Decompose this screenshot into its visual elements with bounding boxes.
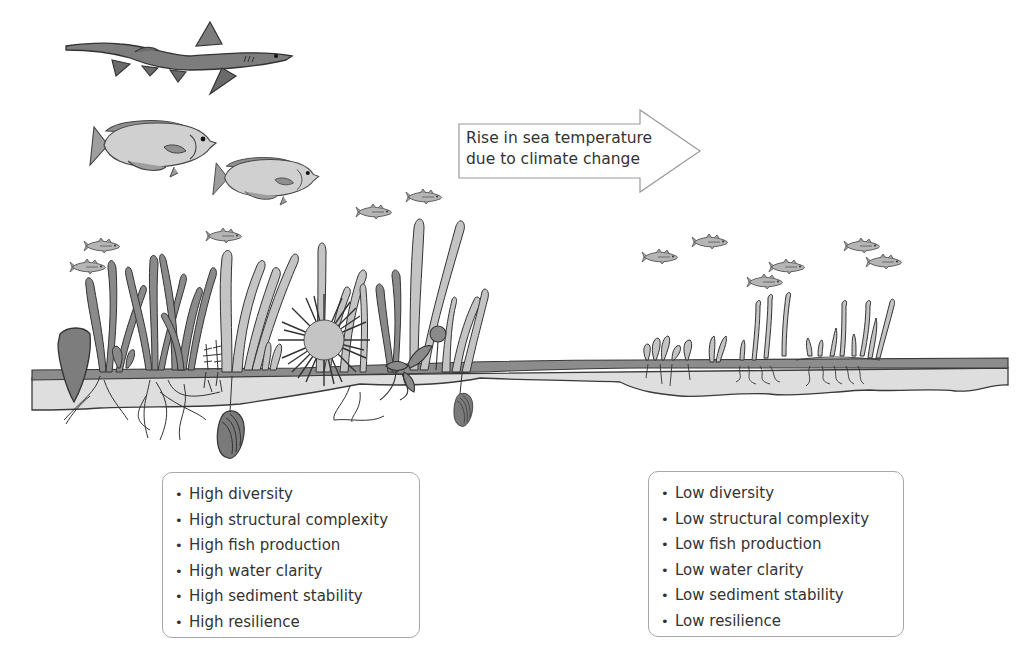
item-label: High water clarity xyxy=(189,562,322,580)
bullet-icon: • xyxy=(661,508,675,533)
item-label: High sediment stability xyxy=(189,587,363,605)
bullet-icon: • xyxy=(661,610,675,635)
list-item: •Low structural complexity xyxy=(661,507,903,533)
list-item: •High structural complexity xyxy=(175,508,419,534)
item-label: Low water clarity xyxy=(675,561,804,579)
bullet-icon: • xyxy=(661,533,675,558)
bullet-icon: • xyxy=(175,534,189,559)
small-fish-icon xyxy=(844,238,880,253)
bullet-icon: • xyxy=(175,509,189,534)
small-fish-icon xyxy=(70,259,106,274)
healthy-state-list: •High diversity •High structural complex… xyxy=(175,482,419,635)
item-label: High fish production xyxy=(189,536,340,554)
degraded-state-list: •Low diversity •Low structural complexit… xyxy=(661,481,903,634)
small-fish-icon xyxy=(642,249,678,264)
item-label: Low resilience xyxy=(675,612,781,630)
large-fish-icon xyxy=(213,158,319,205)
list-item: •High resilience xyxy=(175,610,419,636)
mussel-icon xyxy=(454,393,473,426)
small-fish-icon xyxy=(747,274,783,289)
item-label: High resilience xyxy=(189,613,300,631)
bullet-icon: • xyxy=(661,482,675,507)
small-fish-icon xyxy=(206,228,242,243)
small-fish-icon xyxy=(866,254,902,269)
arrow-label-line1: Rise in sea temperature xyxy=(466,128,686,149)
list-item: •Low sediment stability xyxy=(661,583,903,609)
bullet-icon: • xyxy=(175,483,189,508)
list-item: •Low resilience xyxy=(661,609,903,635)
list-item: •Low water clarity xyxy=(661,558,903,584)
list-item: •High sediment stability xyxy=(175,584,419,610)
bullet-icon: • xyxy=(661,559,675,584)
bullet-icon: • xyxy=(661,584,675,609)
item-label: Low sediment stability xyxy=(675,586,844,604)
item-label: Low fish production xyxy=(675,535,821,553)
item-label: Low structural complexity xyxy=(675,510,869,528)
seagrass-sparse xyxy=(644,292,895,362)
small-fish-icon xyxy=(769,259,805,274)
large-fish-icon xyxy=(90,121,216,177)
small-fish-icon xyxy=(356,204,392,219)
list-item: •High diversity xyxy=(175,482,419,508)
bullet-icon: • xyxy=(175,560,189,585)
small-fish-icon xyxy=(692,234,728,249)
shark-icon xyxy=(66,22,292,94)
item-label: Low diversity xyxy=(675,484,774,502)
list-item: •Low fish production xyxy=(661,532,903,558)
seagrass-tall xyxy=(220,219,488,372)
healthy-state-box: •High diversity •High structural complex… xyxy=(162,472,420,638)
list-item: •High water clarity xyxy=(175,559,419,585)
bullet-icon: • xyxy=(175,611,189,636)
item-label: High diversity xyxy=(189,485,293,503)
list-item: •High fish production xyxy=(175,533,419,559)
list-item: •Low diversity xyxy=(661,481,903,507)
bullet-icon: • xyxy=(175,585,189,610)
arrow-label-line2: due to climate change xyxy=(466,149,686,170)
arrow-label: Rise in sea temperature due to climate c… xyxy=(466,128,686,170)
item-label: High structural complexity xyxy=(189,511,388,529)
small-fish-icon xyxy=(84,238,120,253)
mussel-icon xyxy=(217,411,244,458)
degraded-state-box: •Low diversity •Low structural complexit… xyxy=(648,471,904,637)
small-fish-icon xyxy=(406,189,442,204)
